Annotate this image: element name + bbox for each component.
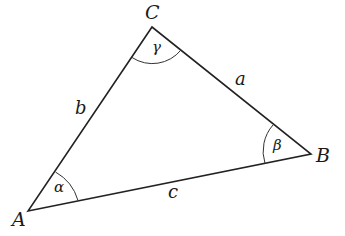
vertex-label-b: B — [316, 146, 330, 165]
angle-label-beta: β — [273, 138, 282, 153]
angle-label-alpha: α — [54, 180, 64, 195]
vertex-label-c: C — [145, 3, 160, 22]
triangle-diagram: C B A a b c α β γ — [0, 0, 345, 236]
angle-arc-beta — [263, 125, 273, 164]
side-label-c: c — [168, 183, 178, 201]
angle-label-gamma: γ — [152, 40, 161, 55]
vertex-label-a: A — [12, 210, 26, 229]
side-label-a: a — [235, 70, 246, 88]
side-label-b: b — [75, 99, 87, 117]
